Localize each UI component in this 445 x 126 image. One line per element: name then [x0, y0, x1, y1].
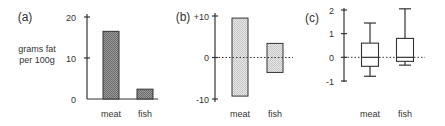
panel-a: (a)grams fatper 100g01020meatfish	[18, 10, 158, 119]
box	[362, 43, 379, 66]
panel-b: (b)-100+10meatfish	[176, 10, 293, 119]
y-tick-label: 0	[329, 53, 334, 63]
bar-meat	[103, 31, 119, 99]
y-tick-label: 10	[66, 54, 76, 64]
y-tick-label: -10	[196, 95, 209, 105]
y-axis-label-line2: per 100g	[19, 55, 55, 65]
category-label-fish: fish	[398, 109, 412, 119]
category-label-meat: meat	[101, 109, 122, 119]
y-tick-label: +10	[194, 12, 209, 22]
y-tick-label: 1	[329, 29, 334, 39]
y-tick-label: 2	[329, 6, 334, 16]
boxplot-meat	[362, 23, 379, 76]
y-tick-label: 20	[66, 13, 76, 23]
boxplot-fish	[397, 9, 414, 65]
bar-fish	[137, 89, 153, 99]
category-label-fish: fish	[138, 109, 152, 119]
panel-label-c: (c)	[305, 11, 319, 25]
panel-label-a: (a)	[18, 10, 33, 24]
figure: (a)grams fatper 100g01020meatfish (b)-10…	[0, 0, 445, 126]
category-label-meat: meat	[360, 109, 381, 119]
y-tick-label: 0	[71, 95, 76, 105]
y-tick-label: 0	[204, 53, 209, 63]
y-axis-label-line1: grams fat	[18, 44, 56, 54]
y-tick-label: -1	[326, 77, 334, 87]
panel-label-b: (b)	[176, 10, 191, 24]
category-label-meat: meat	[230, 109, 251, 119]
panel-c: (c)-1012meatfish	[305, 6, 425, 120]
category-label-fish: fish	[268, 109, 282, 119]
